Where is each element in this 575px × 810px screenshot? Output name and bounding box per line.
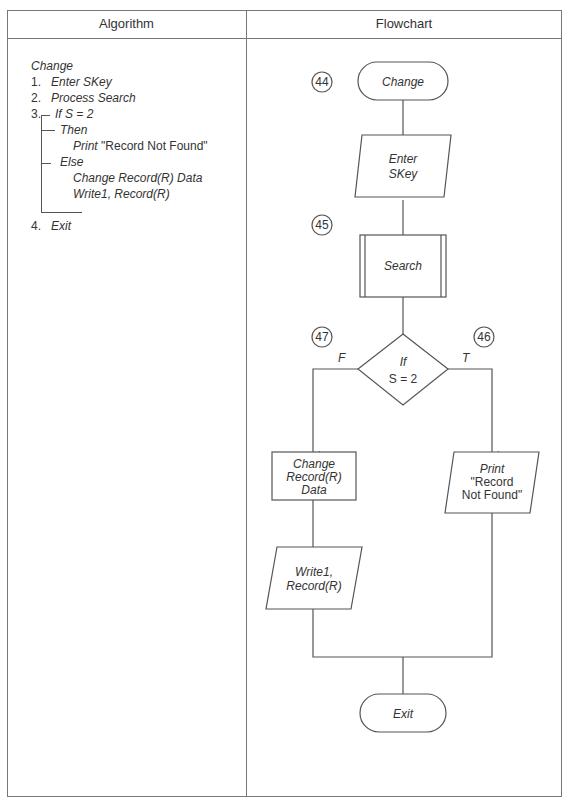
svg-text:Not Found": Not Found" (462, 488, 522, 502)
svg-text:45: 45 (315, 218, 329, 232)
start-label: Change (382, 75, 424, 89)
svg-text:Search: Search (384, 259, 422, 273)
end-terminator: Exit (360, 694, 446, 732)
svg-text:44: 44 (315, 75, 329, 89)
svg-text:"Record: "Record (471, 475, 514, 489)
svg-text:Enter: Enter (389, 152, 419, 166)
svg-text:Record(R): Record(R) (286, 470, 341, 484)
flowchart-diagram: Change 44 Enter SKey 45 Search 47 46 If … (0, 0, 575, 810)
false-label: F (338, 351, 346, 365)
decision-if-s-2: If S = 2 (358, 334, 448, 405)
svg-text:Print: Print (480, 462, 505, 476)
svg-text:Data: Data (301, 483, 327, 497)
svg-text:S = 2: S = 2 (389, 372, 418, 386)
input-enter-skey: Enter SKey (355, 135, 451, 197)
output-write-record: Write1, Record(R) (266, 547, 362, 609)
start-terminator: Change (358, 62, 448, 100)
svg-text:46: 46 (477, 330, 491, 344)
output-print-not-found: Print "Record Not Found" (445, 452, 539, 513)
svg-text:SKey: SKey (389, 167, 419, 181)
connector-47: 47 (312, 327, 332, 347)
svg-text:Write1,: Write1, (295, 565, 333, 579)
svg-text:Record(R): Record(R) (286, 579, 341, 593)
process-search: Search (360, 235, 446, 297)
true-label: T (462, 351, 471, 365)
end-label: Exit (393, 707, 414, 721)
connector-44: 44 (312, 72, 332, 92)
svg-text:47: 47 (315, 330, 329, 344)
connector-46: 46 (474, 327, 494, 347)
svg-text:Change: Change (293, 457, 335, 471)
process-change-record: Change Record(R) Data (272, 452, 356, 500)
connector-45: 45 (312, 215, 332, 235)
